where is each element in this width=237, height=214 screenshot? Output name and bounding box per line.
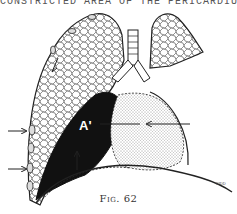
artist-signature: KIDD [216,181,226,186]
lung-diagram [0,0,237,214]
pericardial-sac [111,93,184,170]
figure-caption: Fig. 62 [0,193,237,204]
right-lung [150,14,203,68]
region-label-a: A' [79,118,91,133]
